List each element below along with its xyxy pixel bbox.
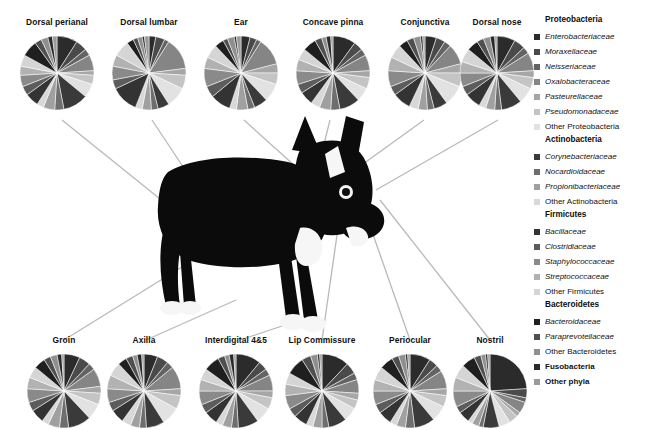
legend-swatch-icon	[534, 169, 540, 175]
pie-chart-ear: Ear	[193, 17, 289, 116]
legend-item-label: Fusobacteria	[545, 359, 595, 374]
legend-group-header: Proteobacteria	[545, 14, 654, 26]
legend-swatch-icon	[534, 184, 540, 190]
legend-item: Other phyla	[527, 374, 654, 389]
pie-graphic	[101, 348, 187, 430]
legend-swatch-icon	[534, 349, 540, 355]
legend-item: Other Bacteroidetes	[527, 344, 654, 359]
legend-item: Other Actinobacteria	[527, 194, 654, 209]
legend-item: Nocardioidaceae	[527, 164, 654, 179]
legend-item: Streptococcaceae	[527, 269, 654, 284]
legend-swatch-icon	[534, 154, 540, 160]
legend-item: Bacteroidaceae	[527, 314, 654, 329]
pie-chart-dorsal-perianal: Dorsal perianal	[9, 17, 105, 116]
legend-swatch-icon	[534, 79, 540, 85]
legend-item: Neisseriaceae	[527, 59, 654, 74]
legend-swatch-icon	[534, 334, 540, 340]
pie-graphic	[198, 30, 284, 116]
legend-swatch-icon	[534, 274, 540, 280]
pie-chart-interdigital-4-5: Interdigital 4&5	[188, 335, 284, 430]
legend-item-label: Moraxellaceae	[545, 44, 597, 59]
legend-item: Enterobacteriaceae	[527, 29, 654, 44]
legend-item: Oxalobacteraceae	[527, 74, 654, 89]
legend-item: Pseudomonadaceae	[527, 104, 654, 119]
legend-swatch-icon	[534, 94, 540, 100]
pie-graphic	[290, 30, 376, 116]
legend-item-label: Paraprevotellaceae	[545, 329, 614, 344]
pie-chart-lip-commissure: Lip Commissure	[274, 335, 370, 430]
pie-chart-axilla: Axilla	[96, 335, 192, 430]
pie-chart-label: Dorsal lumbar	[101, 17, 197, 28]
legend-item: Pasteurellaceae	[527, 89, 654, 104]
legend-item-label: Bacteroidaceae	[545, 314, 601, 329]
pie-slice	[490, 354, 527, 391]
pie-chart-label: Lip Commissure	[274, 335, 370, 346]
pie-graphic	[21, 348, 107, 430]
legend-item-label: Bacillaceae	[545, 224, 586, 239]
legend-swatch-icon	[534, 109, 540, 115]
pie-chart-label: Interdigital 4&5	[188, 335, 284, 346]
legend-swatch-icon	[534, 34, 540, 40]
pie-chart-label: Concave pinna	[285, 17, 381, 28]
legend-swatch-icon	[534, 379, 540, 385]
legend-item-label: Other Actinobacteria	[545, 194, 617, 209]
legend-item: Moraxellaceae	[527, 44, 654, 59]
pie-chart-concave-pinna: Concave pinna	[285, 17, 381, 116]
legend-item-label: Streptococcaceae	[545, 269, 609, 284]
legend-swatch-icon	[534, 364, 540, 370]
legend-item-label: Oxalobacteraceae	[545, 74, 610, 89]
legend-item: Bacillaceae	[527, 224, 654, 239]
pie-graphic	[367, 348, 453, 430]
legend-item-label: Clostridiaceae	[545, 239, 596, 254]
pie-graphic	[447, 348, 533, 430]
pie-chart-label: Dorsal perianal	[9, 17, 105, 28]
legend-item-label: Other Proteobacteria	[545, 119, 619, 134]
pie-chart-label: Axilla	[96, 335, 192, 346]
legend-item-label: Neisseriaceae	[545, 59, 596, 74]
dog-photo	[150, 110, 400, 332]
legend-item: Propionibacteriaceae	[527, 179, 654, 194]
legend-item-label: Corynebacteriaceae	[545, 149, 617, 164]
legend-group-header: Firmicutes	[545, 209, 654, 221]
legend-item: Corynebacteriaceae	[527, 149, 654, 164]
legend-item: Other Firmicutes	[527, 284, 654, 299]
legend-item-label: Pseudomonadaceae	[545, 104, 618, 119]
legend-group-header: Actinobacteria	[545, 134, 654, 146]
pie-chart-label: Ear	[193, 17, 289, 28]
legend-swatch-icon	[534, 319, 540, 325]
legend-item: Paraprevotellaceae	[527, 329, 654, 344]
legend-swatch-icon	[534, 124, 540, 130]
legend-item: Clostridiaceae	[527, 239, 654, 254]
legend-item-label: Pasteurellaceae	[545, 89, 602, 104]
pie-graphic	[106, 30, 192, 116]
legend-item-label: Propionibacteriaceae	[545, 179, 620, 194]
legend-item-label: Staphylococcaceae	[545, 254, 614, 269]
figure-canvas: Dorsal perianalDorsal lumbarEarConcave p…	[0, 0, 654, 430]
legend-item-label: Other Firmicutes	[545, 284, 604, 299]
pie-graphic	[279, 348, 365, 430]
legend-swatch-icon	[534, 229, 540, 235]
pie-graphic	[14, 30, 100, 116]
legend-item-label: Other Bacteroidetes	[545, 344, 616, 359]
pie-chart-label: Nostril	[442, 335, 538, 346]
legend-swatch-icon	[534, 289, 540, 295]
legend-item-label: Other phyla	[545, 374, 589, 389]
legend-item: Other Proteobacteria	[527, 119, 654, 134]
legend-group-header: Bacteroidetes	[545, 299, 654, 311]
legend: ProteobacteriaEnterobacteriaceaeMoraxell…	[527, 14, 654, 389]
legend-swatch-icon	[534, 199, 540, 205]
pie-graphic	[193, 348, 279, 430]
legend-swatch-icon	[534, 244, 540, 250]
legend-swatch-icon	[534, 49, 540, 55]
legend-item: Staphylococcaceae	[527, 254, 654, 269]
pie-chart-dorsal-lumbar: Dorsal lumbar	[101, 17, 197, 116]
legend-item: Fusobacteria	[527, 359, 654, 374]
legend-swatch-icon	[534, 259, 540, 265]
pie-chart-nostril: Nostril	[442, 335, 538, 430]
legend-item-label: Nocardioidaceae	[545, 164, 605, 179]
legend-item-label: Enterobacteriaceae	[545, 29, 614, 44]
legend-swatch-icon	[534, 64, 540, 70]
